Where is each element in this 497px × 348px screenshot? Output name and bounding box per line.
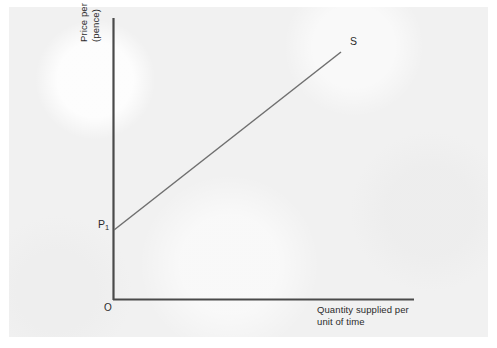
origin-label: O [104, 302, 112, 314]
figure-container: Price per unit (pence) Quantity supplied… [0, 0, 497, 348]
supply-curve-chart [0, 0, 497, 348]
supply-curve-label: S [350, 36, 357, 48]
supply-curve-line [114, 52, 341, 230]
x-axis-label: Quantity supplied per unit of time [317, 304, 467, 327]
price-intercept-label: P1 [98, 219, 109, 234]
price-intercept-subscript: 1 [105, 223, 109, 232]
y-axis-label: Price per unit (pence) [78, 0, 101, 42]
